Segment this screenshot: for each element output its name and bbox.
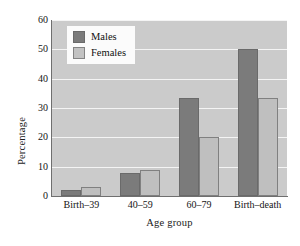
bar-females — [258, 98, 278, 196]
x-axis-line — [52, 196, 288, 197]
legend-item: Males — [73, 31, 126, 43]
legend-swatch-icon — [73, 47, 85, 59]
x-tick-label: 60–79 — [186, 199, 211, 211]
bar-group — [238, 20, 278, 196]
y-tick-label: 10 — [22, 162, 48, 172]
legend-label: Males — [91, 32, 117, 43]
bar-females — [199, 137, 219, 196]
y-tick-label: 30 — [22, 103, 48, 113]
y-tick-label: 20 — [22, 132, 48, 142]
bar-group — [179, 20, 219, 196]
legend-label: Females — [91, 48, 126, 59]
x-tick-label: Birth–39 — [64, 199, 100, 211]
bar-males — [238, 49, 258, 196]
x-axis-title: Age group — [52, 217, 287, 228]
y-tick-label: 40 — [22, 74, 48, 84]
bar-males — [120, 173, 140, 196]
x-axis-tick-labels: Birth–3940–5960–79Birth–death — [52, 199, 287, 213]
bar-chart: Percentage 0102030405060 MalesFemales Bi… — [0, 0, 300, 246]
y-axis-tick-labels: 0102030405060 — [22, 20, 48, 196]
x-tick-label: 40–59 — [128, 199, 153, 211]
bar-males — [61, 190, 81, 196]
chart-legend: MalesFemales — [67, 26, 135, 64]
bar-females — [140, 170, 160, 196]
bar-females — [81, 187, 101, 196]
plot-area: MalesFemales — [52, 20, 287, 196]
y-tick-label: 0 — [22, 191, 48, 201]
bar-males — [179, 98, 199, 196]
legend-item: Females — [73, 47, 126, 59]
y-tick-label: 60 — [22, 15, 48, 25]
y-tick-label: 50 — [22, 44, 48, 54]
x-tick-label: Birth–death — [234, 199, 281, 211]
legend-swatch-icon — [73, 31, 85, 43]
